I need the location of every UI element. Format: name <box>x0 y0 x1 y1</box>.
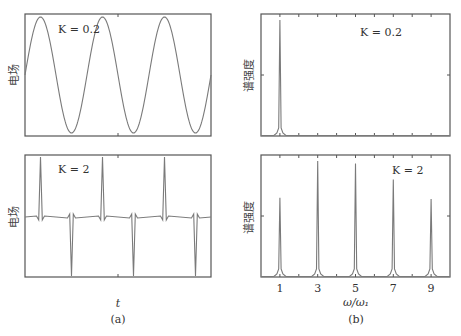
y-axis-label: 电场 <box>7 206 21 228</box>
k-annotation: K = 2 <box>392 164 423 177</box>
panel-a-bottom: K = 2 电场 t (a) <box>7 155 211 326</box>
field-trace-k2 <box>25 157 211 276</box>
x-tick-label: 1 <box>276 282 283 295</box>
y-axis-label: 谱强度 <box>242 201 256 234</box>
x-axis-label: ω/ω₁ <box>343 296 369 309</box>
spectrum-trace-k02 <box>261 20 450 135</box>
panel-a-top: K = 0.2 电场 <box>7 14 211 136</box>
x-tick-label: 3 <box>314 282 321 295</box>
figure-canvas: K = 0.2 电场 K = 2 电场 t (a) K = 0.2 谱强度 K … <box>0 0 461 336</box>
plot-frame <box>261 14 450 136</box>
field-trace-k02 <box>25 17 211 133</box>
panel-caption: (a) <box>110 313 125 326</box>
x-tick-labels: 13579 <box>276 282 434 295</box>
x-tick-label: 9 <box>428 282 435 295</box>
k-annotation: K = 0.2 <box>58 23 100 36</box>
x-tick-label: 7 <box>390 282 397 295</box>
k-annotation: K = 0.2 <box>360 26 402 39</box>
k-annotation: K = 2 <box>58 163 89 176</box>
y-axis-label: 电场 <box>7 64 21 86</box>
y-axis-label: 谱强度 <box>242 59 256 92</box>
panel-b-top: K = 0.2 谱强度 <box>242 14 450 136</box>
x-tick-label: 5 <box>352 282 359 295</box>
panel-b-bottom: K = 2 谱强度 13579 ω/ω₁ (b) <box>242 155 450 326</box>
spectrum-trace-k2 <box>261 161 450 276</box>
x-axis-label: t <box>116 297 121 310</box>
panel-caption: (b) <box>348 313 364 326</box>
plot-frame <box>25 155 211 277</box>
